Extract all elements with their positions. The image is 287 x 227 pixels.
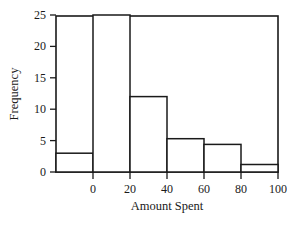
y-axis-tick-labels: 0 5 10 15 20 25: [34, 8, 46, 179]
y-tick-label-25: 25: [34, 8, 46, 22]
y-axis-title: Frequency: [7, 67, 21, 121]
bar-bin-1: [56, 153, 93, 172]
x-tick-label-20: 20: [124, 182, 136, 196]
x-tick-label-60: 60: [198, 182, 210, 196]
y-tick-label-15: 15: [34, 71, 46, 85]
bar-bin-5: [204, 144, 241, 172]
x-tick-label-0: 0: [90, 182, 96, 196]
x-tick-label-40: 40: [161, 182, 173, 196]
y-tick-label-5: 5: [40, 134, 46, 148]
bar-bin-6: [241, 165, 278, 173]
chart-canvas: 0 5 10 15 20 25 0 20 40 60 80 100: [0, 0, 287, 227]
y-axis-ticks: [50, 15, 56, 172]
bar-bin-3: [130, 97, 167, 172]
x-axis-title: Amount Spent: [131, 199, 204, 213]
y-tick-label-20: 20: [34, 39, 46, 53]
x-tick-label-80: 80: [235, 182, 247, 196]
bar-bin-2: [93, 15, 130, 172]
y-tick-label-10: 10: [34, 102, 46, 116]
x-axis-tick-labels: 0 20 40 60 80 100: [90, 182, 287, 196]
histogram-bars: [56, 15, 278, 172]
histogram-figure: 0 5 10 15 20 25 0 20 40 60 80 100: [0, 0, 287, 227]
x-axis-ticks: [93, 172, 278, 179]
y-tick-label-0: 0: [40, 165, 46, 179]
x-tick-label-100: 100: [269, 182, 287, 196]
bar-bin-4: [167, 139, 204, 172]
